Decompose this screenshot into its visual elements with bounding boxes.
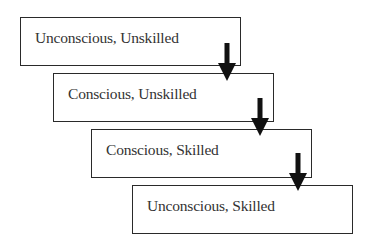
- down-arrow-icon: [250, 98, 270, 136]
- stage-label-3: Conscious, Skilled: [92, 141, 219, 167]
- stage-box-2: Conscious, Unskilled: [53, 73, 274, 122]
- stage-label-2: Conscious, Unskilled: [54, 85, 197, 111]
- stage-label-1: Unconscious, Unskilled: [21, 29, 179, 55]
- stage-label-4: Unconscious, Skilled: [133, 197, 275, 223]
- stage-box-3: Conscious, Skilled: [91, 129, 312, 178]
- down-arrow-icon: [217, 43, 237, 81]
- down-arrow-icon: [288, 153, 308, 191]
- stage-box-1: Unconscious, Unskilled: [20, 17, 241, 66]
- stage-box-4: Unconscious, Skilled: [132, 185, 353, 234]
